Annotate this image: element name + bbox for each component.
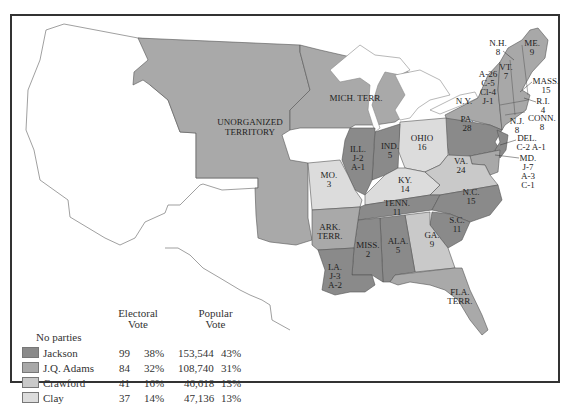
label-me-2: 9 bbox=[530, 47, 535, 57]
label-ohio-2: 16 bbox=[418, 142, 428, 152]
swatch-crawford bbox=[22, 377, 39, 388]
label-nc-2: 15 bbox=[467, 196, 477, 206]
legend-party-header: No parties bbox=[36, 332, 82, 343]
swatch-adams bbox=[22, 362, 39, 373]
label-ark-2: TERR. bbox=[317, 231, 342, 241]
swatch-jackson bbox=[22, 347, 39, 358]
legend-row-clay: Clay 37 14% 47,136 13% bbox=[18, 391, 283, 406]
label-unorganized-1: UNORGANIZED bbox=[217, 117, 283, 127]
label-pa-2: 28 bbox=[463, 123, 473, 133]
legend-row-jackson: Jackson 99 38% 153,544 43% bbox=[18, 346, 283, 361]
label-ala-2: 5 bbox=[396, 245, 401, 255]
label-ky-2: 14 bbox=[401, 184, 411, 194]
popular-header: Popular Vote bbox=[193, 308, 238, 330]
label-ny-j: J-1 bbox=[483, 96, 494, 106]
label-tenn-2: 11 bbox=[393, 207, 402, 217]
electoral-header: Electoral Vote bbox=[118, 308, 158, 330]
label-del-2: C-2 A-1 bbox=[516, 142, 545, 152]
label-md-4: C-1 bbox=[521, 180, 535, 190]
label-mass-2: 15 bbox=[542, 85, 552, 95]
label-miss-2: 2 bbox=[366, 249, 371, 259]
swatch-clay bbox=[22, 392, 39, 403]
label-conn-2: 8 bbox=[540, 122, 545, 132]
label-sc-2: 11 bbox=[453, 224, 462, 234]
label-la-3: A-2 bbox=[328, 280, 342, 290]
label-unorganized-2: TERRITORY bbox=[225, 127, 275, 137]
label-ga-2: 9 bbox=[430, 239, 435, 249]
label-va-2: 24 bbox=[457, 165, 467, 175]
label-ny: N.Y. bbox=[456, 96, 472, 106]
label-ill-3: A-1 bbox=[351, 162, 365, 172]
label-mo-2: 3 bbox=[327, 179, 332, 189]
legend: No parties Electoral Vote Popular Vote J… bbox=[18, 288, 288, 380]
label-fla-2: TERR. bbox=[447, 296, 472, 306]
region-fla-terr bbox=[390, 268, 488, 335]
label-ind-2: 5 bbox=[388, 150, 393, 160]
legend-row-crawford: Crawford 41 16% 46,618 13% bbox=[18, 376, 283, 391]
label-mich: MICH. TERR. bbox=[329, 93, 382, 103]
label-vt-2: 7 bbox=[504, 71, 509, 81]
label-nh-2: 8 bbox=[496, 47, 501, 57]
legend-row-adams: J.Q. Adams 84 32% 108,740 31% bbox=[18, 361, 283, 376]
